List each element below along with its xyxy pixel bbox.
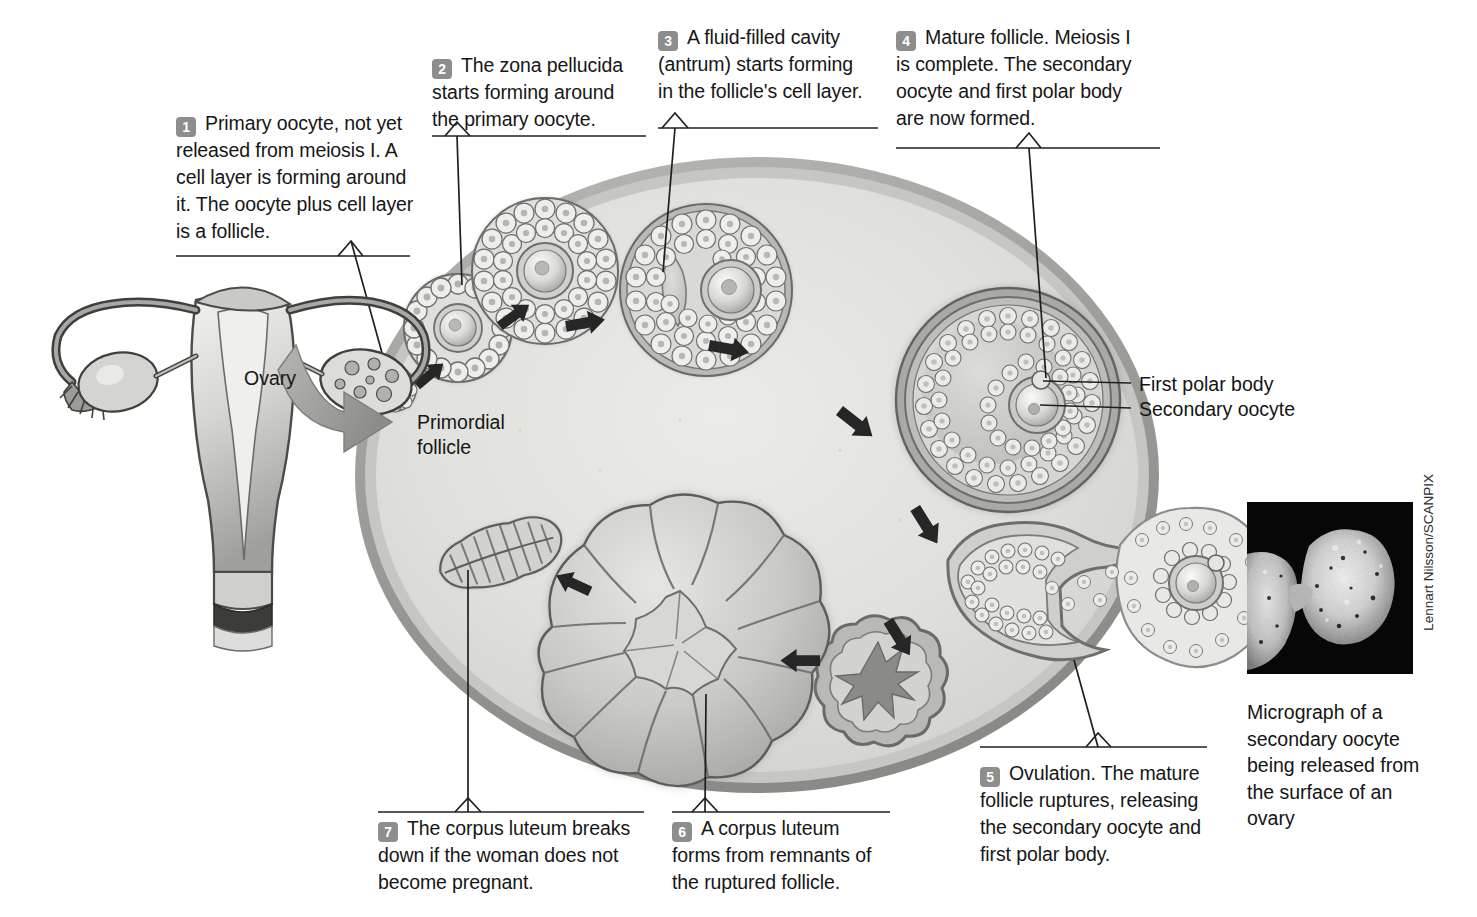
callout-1: 1Primary oocyte, not yet released from m… xyxy=(176,110,426,245)
callout-4-text: Mature follicle. Meiosis I is complete. … xyxy=(896,26,1132,129)
callout-3: 3A fluid-filled cavity (antrum) starts f… xyxy=(658,24,868,105)
callout-2: 2The zona pellucida starts forming aroun… xyxy=(432,52,638,133)
ovary-label: Ovary xyxy=(244,366,296,391)
callout-3-badge: 3 xyxy=(658,31,678,51)
callout-6-text: A corpus luteum forms from remnants of t… xyxy=(672,817,871,893)
callout-7-badge: 7 xyxy=(378,822,398,842)
figure-canvas: 1Primary oocyte, not yet released from m… xyxy=(0,0,1477,917)
callout-5-text: Ovulation. The mature follicle ruptures,… xyxy=(980,762,1201,865)
callout-6: 6A corpus luteum forms from remnants of … xyxy=(672,815,882,896)
callout-7-text: The corpus luteum breaks down if the wom… xyxy=(378,817,630,893)
mature-follicle xyxy=(896,288,1120,512)
callout-5-badge: 5 xyxy=(980,767,1000,787)
first-polar-body-label: First polar body xyxy=(1139,371,1273,397)
primordial-follicle-label: Primordial follicle xyxy=(417,410,537,460)
callout-7: 7The corpus luteum breaks down if the wo… xyxy=(378,815,634,896)
callout-1-badge: 1 xyxy=(176,117,196,137)
primordial-follicle-label-line1: Primordial xyxy=(417,411,505,433)
ruptured-follicle xyxy=(815,616,947,746)
photo-credit: Lennart Nilsson/SCANPIX xyxy=(1421,474,1436,631)
first-polar-body xyxy=(1032,371,1050,389)
micrograph-caption: Micrograph of a secondary oocyte being r… xyxy=(1247,699,1437,832)
micrograph-photo xyxy=(1247,502,1413,674)
antral-follicle xyxy=(620,204,792,376)
callout-1-text: Primary oocyte, not yet released from me… xyxy=(176,112,413,242)
callout-3-text: A fluid-filled cavity (antrum) starts fo… xyxy=(658,26,863,102)
secondary-oocyte-label: Secondary oocyte xyxy=(1139,396,1295,422)
callout-4: 4Mature follicle. Meiosis I is complete.… xyxy=(896,24,1148,132)
callout-5: 5Ovulation. The mature follicle ruptures… xyxy=(980,760,1215,868)
callout-4-badge: 4 xyxy=(896,31,916,51)
callout-6-badge: 6 xyxy=(672,822,692,842)
primordial-follicle-label-line2: follicle xyxy=(417,436,471,458)
callout-2-badge: 2 xyxy=(432,59,452,79)
released-first-polar-body xyxy=(1208,555,1224,571)
callout-2-text: The zona pellucida starts forming around… xyxy=(432,54,623,130)
